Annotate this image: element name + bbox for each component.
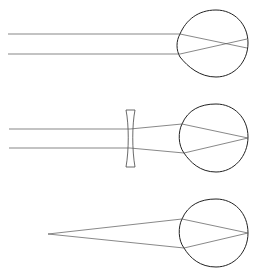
eyeball xyxy=(179,199,248,267)
ray-lower xyxy=(48,234,184,248)
panel-myopic-eye xyxy=(8,10,248,77)
concave-lens xyxy=(126,110,135,167)
eyeball xyxy=(177,10,248,77)
panel-near-object xyxy=(48,199,248,267)
myopia-diagram xyxy=(0,0,259,280)
diverged-ray-lower xyxy=(130,148,184,153)
ray-upper xyxy=(48,219,182,234)
diverged-ray-upper xyxy=(130,124,182,129)
panel-corrected-eye xyxy=(9,104,248,172)
eyeball xyxy=(179,104,248,172)
